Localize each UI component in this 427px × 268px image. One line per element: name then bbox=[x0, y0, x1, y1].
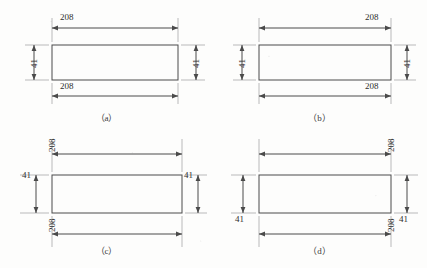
arrowhead bbox=[196, 207, 201, 213]
arrowhead bbox=[385, 232, 391, 237]
arrowhead bbox=[259, 232, 265, 237]
panel-a: 208 208 41 41 （a） bbox=[0, 0, 213, 134]
arrowhead bbox=[172, 26, 178, 31]
arrowhead bbox=[176, 152, 182, 157]
arrowhead bbox=[240, 74, 245, 80]
panel-caption-c: （c） bbox=[0, 244, 213, 257]
arrowhead bbox=[32, 45, 37, 51]
panel-d: 208 208 41 41 （d） bbox=[213, 131, 426, 265]
dimension-label-bottom: 208 bbox=[60, 82, 74, 91]
arrowhead bbox=[34, 175, 39, 181]
dimension-label-top: 208 bbox=[48, 139, 57, 153]
rectangle-outline bbox=[259, 45, 391, 80]
arrowhead bbox=[34, 207, 39, 213]
arrowhead bbox=[405, 45, 410, 51]
arrowhead bbox=[241, 207, 246, 213]
dimension-label-left: 41 bbox=[238, 59, 247, 68]
dimension-label-top: 208 bbox=[387, 139, 396, 153]
dimension-label-bottom: 208 bbox=[48, 219, 57, 233]
arrowhead bbox=[259, 26, 265, 31]
dimension-label-left: 41 bbox=[235, 215, 244, 224]
dimension-label-top: 208 bbox=[365, 13, 379, 22]
arrowhead bbox=[52, 232, 58, 237]
arrowhead bbox=[52, 94, 58, 99]
rectangle-outline bbox=[52, 45, 178, 80]
dimension-label-right: 41 bbox=[192, 59, 201, 68]
dimension-label-right: 41 bbox=[184, 171, 193, 180]
arrowhead bbox=[259, 94, 265, 99]
arrowhead bbox=[405, 175, 410, 181]
dimension-label-bottom: 208 bbox=[387, 219, 396, 233]
arrowhead bbox=[32, 74, 37, 80]
figure-sheet: 208 208 41 41 （a） bbox=[0, 0, 427, 268]
arrowhead bbox=[196, 175, 201, 181]
arrowhead bbox=[194, 74, 199, 80]
panel-caption-b: （b） bbox=[213, 111, 426, 124]
arrowhead bbox=[385, 26, 391, 31]
arrowhead bbox=[259, 152, 265, 157]
arrowhead bbox=[172, 94, 178, 99]
dimension-label-left: 41 bbox=[22, 171, 31, 180]
arrowhead bbox=[385, 152, 391, 157]
arrowhead bbox=[194, 45, 199, 51]
dimension-label-right: 41 bbox=[403, 59, 412, 68]
dimension-label-bottom: 208 bbox=[365, 82, 379, 91]
arrowhead bbox=[241, 175, 246, 181]
arrowhead bbox=[52, 26, 58, 31]
dimension-label-right: 41 bbox=[399, 215, 408, 224]
arrowhead bbox=[385, 94, 391, 99]
arrowhead bbox=[405, 207, 410, 213]
dimension-label-top: 208 bbox=[60, 13, 74, 22]
arrowhead bbox=[405, 74, 410, 80]
panel-caption-d: （d） bbox=[213, 244, 426, 257]
panel-caption-a: （a） bbox=[0, 111, 213, 124]
arrowhead bbox=[176, 232, 182, 237]
arrowhead bbox=[52, 152, 58, 157]
rectangle-outline bbox=[52, 175, 182, 213]
panel-c: 208 208 41 41 （c） bbox=[0, 131, 213, 265]
rectangle-outline bbox=[259, 175, 391, 213]
panel-b: 208 208 41 41 （b） bbox=[213, 0, 426, 134]
arrowhead bbox=[240, 45, 245, 51]
dimension-label-left: 41 bbox=[30, 59, 39, 68]
